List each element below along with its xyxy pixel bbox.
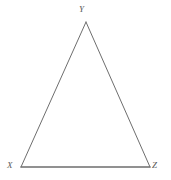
vertex-label-y: Y: [79, 5, 84, 14]
edge-yz-line: [86, 22, 150, 167]
triangle-figure: Y X Z: [0, 0, 171, 180]
triangle-shape: [0, 0, 171, 180]
edge-xy-line: [21, 22, 86, 167]
vertex-label-z: Z: [152, 161, 157, 170]
vertex-label-x: X: [7, 161, 13, 170]
